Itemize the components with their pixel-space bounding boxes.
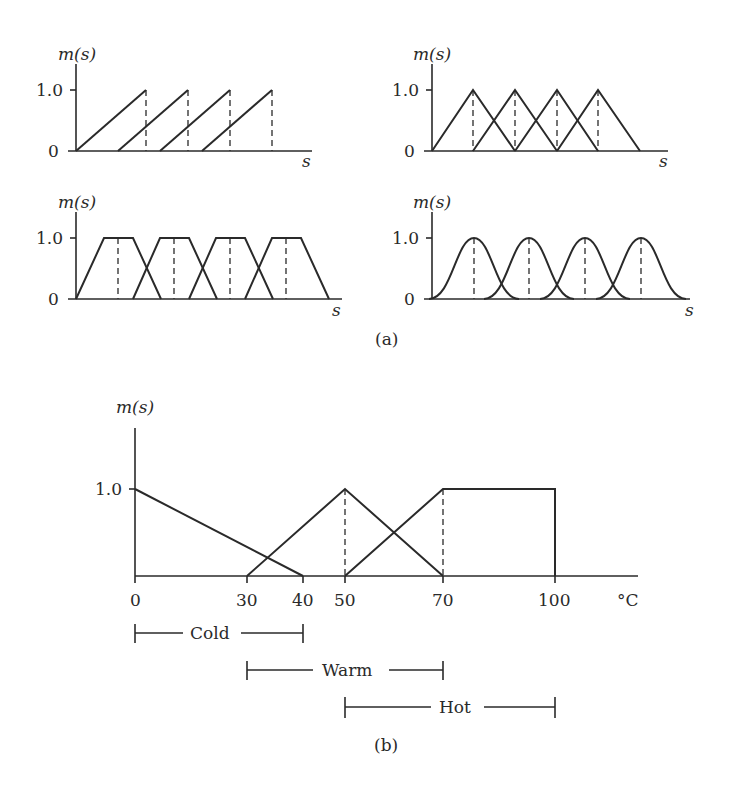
x-axis-label: s: [685, 300, 694, 320]
x-tick-40: 40: [292, 590, 314, 610]
range-label-hot: Hot: [439, 697, 471, 717]
caption-b: (b): [374, 735, 398, 755]
x-tick-70: 70: [432, 590, 454, 610]
plot-trapezoidal: m(s) 1.0 0 s: [36, 192, 342, 320]
membership-functions-figure: m(s) 1.0 0 s m(s) 1.0 0 s m(s): [0, 0, 731, 797]
y-axis-label: m(s): [413, 192, 451, 212]
x-axis-label: s: [302, 151, 311, 171]
y-axis-label: m(s): [413, 44, 451, 64]
y-tick-0: 0: [48, 289, 59, 309]
curve-hot: [345, 489, 555, 576]
y-tick-1: 1.0: [392, 228, 419, 248]
y-tick-0: 0: [404, 289, 415, 309]
plot-triangular: m(s) 1.0 0 s: [392, 44, 668, 171]
range-cold: Cold: [135, 623, 303, 643]
y-tick-0: 0: [48, 141, 59, 161]
caption-a: (a): [375, 329, 398, 349]
x-tick-30: 30: [236, 590, 258, 610]
x-unit-label: °C: [617, 590, 639, 610]
y-axis-label: m(s): [58, 192, 96, 212]
y-tick-1: 1.0: [95, 479, 122, 499]
x-tick-100: 100: [538, 590, 570, 610]
y-tick-1: 1.0: [36, 228, 63, 248]
y-tick-1: 1.0: [392, 80, 419, 100]
plot-ramp: m(s) 1.0 0 s: [36, 44, 312, 171]
plot-gaussian: m(s) 1.0 0 s: [392, 192, 694, 320]
x-tick-0: 0: [130, 590, 141, 610]
x-tick-50: 50: [334, 590, 356, 610]
x-axis-label: s: [332, 300, 341, 320]
y-tick-1: 1.0: [36, 80, 63, 100]
range-hot: Hot: [345, 697, 555, 718]
y-axis-label: m(s): [58, 44, 96, 64]
curve-cold: [135, 489, 303, 576]
range-label-warm: Warm: [322, 660, 372, 680]
x-axis-label: s: [659, 151, 668, 171]
plot-temperature: m(s) 1.0 0 30 40 50 70 100 °C: [95, 397, 639, 610]
y-axis-label: m(s): [116, 397, 154, 417]
range-warm: Warm: [247, 660, 443, 680]
range-label-cold: Cold: [190, 623, 230, 643]
y-tick-0: 0: [404, 141, 415, 161]
